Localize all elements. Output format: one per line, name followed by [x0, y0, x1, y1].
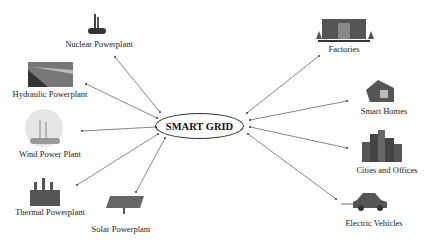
smart-grid-node: SMART GRID [155, 113, 244, 139]
node-label-factories: Factories [328, 44, 359, 54]
node-label-hydraulic: Hydraulic Powerplant [13, 89, 88, 99]
electric-car-icon [341, 193, 387, 211]
city-icon [362, 130, 402, 162]
hydro-dam-icon [28, 62, 73, 87]
smart-grid-diagram: SMART GRID Nuclear Powerplant Hydraulic … [0, 0, 428, 243]
solar-panel-icon [106, 196, 144, 214]
node-label-solar: Solar Powerplant [92, 224, 151, 234]
node-label-thermal: Thermal Powerplant [15, 207, 85, 217]
node-label-nuclear: Nuclear Powerplant [65, 39, 133, 49]
thermal-plant-icon [30, 178, 60, 206]
factory-icon [316, 19, 374, 42]
house-icon [366, 80, 394, 102]
node-label-wind: Wind Power Plant [19, 149, 81, 159]
node-label-ev: Electric Vehicles [345, 218, 402, 228]
nuclear-plant-icon [88, 14, 106, 34]
wind-turbine-icon [25, 109, 63, 147]
node-label-smart-homes: Smart Homes [361, 106, 408, 116]
node-label-cities: Cities and Offices [356, 165, 417, 175]
